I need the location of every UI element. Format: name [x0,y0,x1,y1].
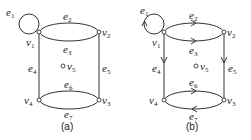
edge-label-e3: e3 [189,44,198,58]
edge-label-e3: e3 [63,43,72,57]
edge-e2 [39,23,99,32]
vertex-label-v4: v4 [149,94,158,108]
vertex-label-v5: v5 [200,60,209,74]
edge-e7 [39,100,99,109]
vertex-v1 [162,30,166,34]
vertex-v1 [37,30,41,34]
edge-label-e5: e5 [102,62,111,76]
vertex-label-v1: v1 [152,36,161,50]
figure-caption-b: (b) [186,121,198,132]
edge-e3 [39,32,99,41]
vertex-v3 [222,98,226,102]
edge-label-e5: e5 [228,62,237,76]
vertex-label-v3: v3 [102,94,111,108]
edge-label-e7: e7 [64,108,73,122]
vertex-label-v2: v2 [227,26,236,40]
vertex-label-v3: v3 [227,94,236,108]
vertex-label-v4: v4 [24,94,33,108]
edge-e1-loop [19,14,39,34]
vertex-v2 [222,30,226,34]
vertex-label-v5: v5 [67,60,76,74]
edge-label-e1: e1 [140,4,149,18]
edge-label-e6: e6 [64,78,73,92]
edge-label-e6: e6 [189,76,198,90]
figure-b: e1 e2 e3 e4 e5 e6 e7 v1 v2 v3 v4 v5 (b) [140,4,237,132]
vertex-v3 [97,98,101,102]
vertex-label-v2: v2 [102,26,111,40]
edge-e6 [39,91,99,100]
figure-a: e1 e2 e3 e4 e5 e6 e7 v1 v2 v3 v4 v5 (a) [6,6,111,132]
vertex-v4 [162,98,166,102]
edge-label-e1: e1 [6,6,15,20]
figure-caption-a: (a) [61,121,73,132]
edge-label-e4: e4 [152,62,161,76]
vertex-v4 [37,98,41,102]
vertex-v5 [194,64,198,68]
vertex-label-v1: v1 [26,36,35,50]
edge-label-e4: e4 [28,62,37,76]
vertex-v5 [61,64,65,68]
edge-label-e2: e2 [189,9,198,23]
vertex-v2 [97,30,101,34]
graph-figure-canvas: e1 e2 e3 e4 e5 e6 e7 v1 v2 v3 v4 v5 (a) [0,0,251,140]
edge-label-e2: e2 [63,10,72,24]
